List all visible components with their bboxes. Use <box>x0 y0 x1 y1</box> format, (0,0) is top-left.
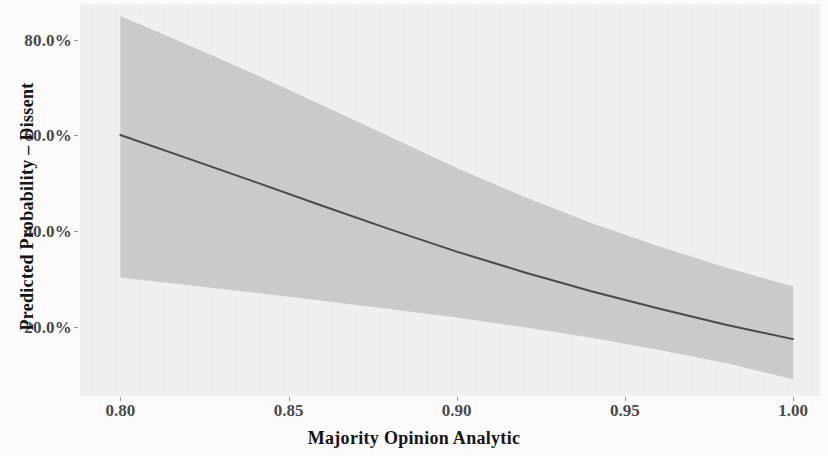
y-tick-mark <box>74 231 78 232</box>
x-tick-mark <box>457 397 458 401</box>
y-tick-mark <box>74 135 78 136</box>
plot-panel <box>80 4 820 396</box>
x-tick-label: 1.00 <box>778 402 808 419</box>
x-tick-mark <box>625 397 626 401</box>
plot-svg <box>80 4 820 396</box>
y-tick-mark <box>74 327 78 328</box>
x-axis-title: Majority Opinion Analytic <box>0 428 828 449</box>
x-tick-label: 0.95 <box>610 402 640 419</box>
confidence-ribbon <box>120 16 793 379</box>
x-tick-mark <box>793 397 794 401</box>
x-tick-mark <box>120 397 121 401</box>
chart-figure: 20.0%40.0%60.0%80.0% 0.800.850.900.951.0… <box>0 0 828 456</box>
x-tick-label: 0.80 <box>105 402 135 419</box>
y-tick-mark <box>74 40 78 41</box>
x-tick-label: 0.85 <box>274 402 304 419</box>
x-tick-label: 0.90 <box>442 402 472 419</box>
y-axis-title: Predicted Probability – Dissent <box>17 11 38 403</box>
x-tick-mark <box>289 397 290 401</box>
